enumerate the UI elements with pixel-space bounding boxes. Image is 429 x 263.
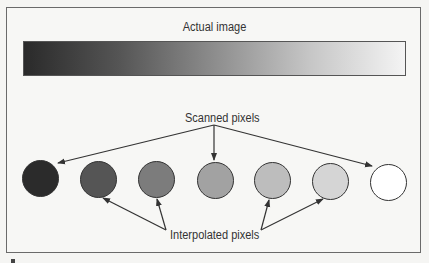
arrow-to-pixel-2 xyxy=(103,198,166,230)
interpolated-pixel-circle xyxy=(80,161,117,198)
scanned-pixel-circle xyxy=(197,162,234,199)
interpolated-arrows xyxy=(103,198,323,230)
interpolated-pixel-circle xyxy=(312,163,349,200)
arrow-to-pixel-6 xyxy=(261,199,323,230)
scanned-arrows xyxy=(58,125,372,166)
figure-marker xyxy=(11,259,15,263)
arrow-to-pixel-5 xyxy=(261,200,269,230)
arrow-to-pixel-3 xyxy=(157,199,166,230)
interpolated-pixel-circle xyxy=(138,161,175,198)
arrows-layer xyxy=(0,0,429,263)
arrow-to-pixel-1 xyxy=(58,125,214,163)
arrow-to-pixel-7 xyxy=(214,125,372,166)
scanned-pixel-circle xyxy=(370,164,407,201)
scanned-pixel-circle xyxy=(22,160,59,197)
